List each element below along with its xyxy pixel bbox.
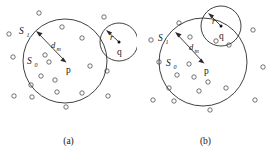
arrowhead-dm-icon <box>36 31 43 36</box>
data-point <box>151 98 155 102</box>
data-point <box>251 28 255 32</box>
label-S0-subscript: 0 <box>174 64 177 70</box>
data-point <box>11 55 15 59</box>
label-S0: S <box>166 58 171 68</box>
label-point-p: p <box>66 65 71 75</box>
data-point <box>214 39 218 43</box>
label-S1-subscript: 1 <box>27 32 30 38</box>
label-point-q: q <box>219 31 224 41</box>
label-S0: S <box>27 56 32 66</box>
data-point <box>12 94 16 98</box>
arrowhead-p-icon <box>198 59 204 64</box>
arrowhead-dm-icon <box>175 32 182 37</box>
center-dot-q <box>220 25 223 28</box>
figure-container: S 1 S 0 d m p q r <box>0 0 273 149</box>
data-point <box>188 35 192 39</box>
label-dm-subscript: m <box>57 46 62 52</box>
data-point <box>208 108 212 112</box>
data-point <box>102 15 106 19</box>
label-point-p: p <box>204 66 209 76</box>
data-point <box>43 53 47 57</box>
data-point <box>192 75 196 79</box>
data-point <box>172 99 176 103</box>
data-point <box>80 91 84 95</box>
data-point <box>64 105 68 109</box>
arrowhead-p-icon <box>60 58 66 63</box>
center-dot-q <box>118 41 121 44</box>
label-S0-subscript: 0 <box>35 62 38 68</box>
data-point <box>206 80 210 84</box>
data-point <box>30 95 34 99</box>
label-dm: d <box>51 40 56 50</box>
data-point <box>224 86 228 90</box>
label-S1-subscript: 1 <box>166 39 169 45</box>
panel-b-diagram: S 1 S 0 d m p q r <box>137 0 273 125</box>
data-point <box>197 89 201 93</box>
data-point <box>253 98 257 102</box>
data-point <box>187 62 191 66</box>
data-point <box>175 73 179 77</box>
label-dm-subscript: m <box>195 48 200 54</box>
data-point <box>88 64 92 68</box>
label-S1: S <box>158 33 163 43</box>
data-point <box>60 25 64 29</box>
data-point <box>53 78 57 82</box>
label-S1: S <box>19 26 24 36</box>
data-point <box>149 38 153 42</box>
caption-a: (a) <box>0 136 137 146</box>
data-point <box>106 94 110 98</box>
caption-b: (b) <box>137 136 273 146</box>
data-point <box>80 36 84 40</box>
data-point <box>261 65 265 69</box>
label-dm: d <box>189 42 194 52</box>
data-point <box>55 90 59 94</box>
panel-a-diagram: S 1 S 0 d m p q r <box>0 0 137 125</box>
data-point <box>39 74 43 78</box>
label-point-q: q <box>117 47 122 57</box>
data-point <box>37 11 41 15</box>
data-point <box>47 60 51 64</box>
data-point <box>7 32 11 36</box>
